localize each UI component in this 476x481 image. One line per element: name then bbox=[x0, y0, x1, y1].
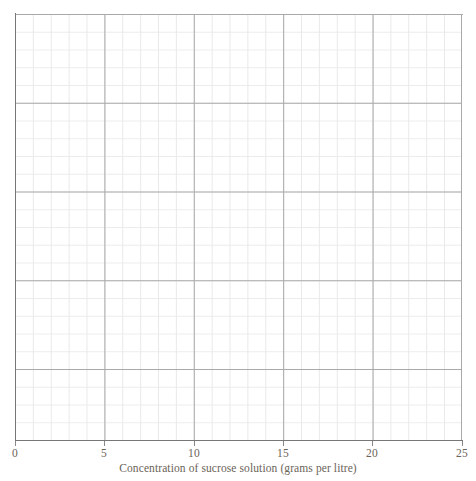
grid-top-border bbox=[15, 14, 463, 15]
x-tick-mark bbox=[194, 441, 195, 446]
graph-paper-chart: 0510152025 Concentration of sucrose solu… bbox=[0, 0, 476, 481]
x-axis-title: Concentration of sucrose solution (grams… bbox=[0, 462, 476, 474]
x-tick-label: 20 bbox=[352, 447, 392, 459]
x-tick-label: 0 bbox=[0, 447, 35, 459]
plot-area-grid bbox=[15, 14, 462, 440]
x-tick-mark bbox=[283, 441, 284, 446]
x-tick-label: 5 bbox=[84, 447, 124, 459]
x-tick-mark bbox=[462, 441, 463, 446]
x-tick-label: 15 bbox=[263, 447, 303, 459]
y-axis-line bbox=[15, 13, 16, 441]
grid-right-border bbox=[461, 14, 462, 441]
x-tick-label: 25 bbox=[442, 447, 476, 459]
x-tick-label: 10 bbox=[174, 447, 214, 459]
x-tick-mark bbox=[104, 441, 105, 446]
x-axis-line bbox=[15, 440, 463, 441]
x-tick-mark bbox=[15, 441, 16, 446]
x-tick-mark bbox=[372, 441, 373, 446]
